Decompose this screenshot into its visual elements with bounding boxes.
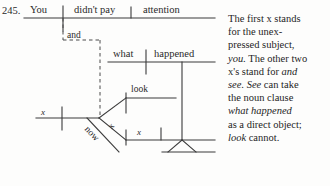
explanation-note: The first x stands for the unex- pressed… — [228, 12, 328, 144]
tripod-left — [168, 140, 182, 152]
word-conjunction-and: and — [67, 31, 81, 41]
note-line: look cannot. — [228, 131, 328, 144]
page-canvas: 245. You didn't pay attention and what h… — [0, 0, 330, 186]
word-clause-subject-what: what — [113, 49, 133, 60]
note-line: for the unex- — [228, 25, 328, 38]
word-object-attention: attention — [143, 5, 180, 16]
note-line: you. The other two — [228, 52, 328, 65]
word-subject-you: You — [30, 5, 47, 16]
note-line: see. See can take — [228, 78, 328, 91]
word-subject-x: x — [41, 108, 45, 117]
note-line: as a direct object; — [228, 118, 328, 131]
item-number: 245. — [2, 6, 20, 17]
word-clause-verb-happened: happened — [154, 49, 194, 60]
word-marker-x-lower: x — [137, 128, 141, 137]
note-line: x's stand for and — [228, 65, 328, 78]
note-line: the noun clause — [228, 91, 328, 104]
note-line: what happened — [228, 104, 328, 117]
diagram-lines — [0, 0, 222, 186]
note-line: The first x stands — [228, 12, 328, 25]
word-verb-look: look — [131, 85, 148, 95]
tripod-right — [182, 140, 196, 152]
fork-upper-look — [99, 98, 126, 118]
note-line: pressed subject, — [228, 38, 328, 51]
word-predicate-didnt-pay: didn't pay — [74, 5, 115, 16]
sentence-diagram: 245. You didn't pay attention and what h… — [0, 0, 222, 186]
